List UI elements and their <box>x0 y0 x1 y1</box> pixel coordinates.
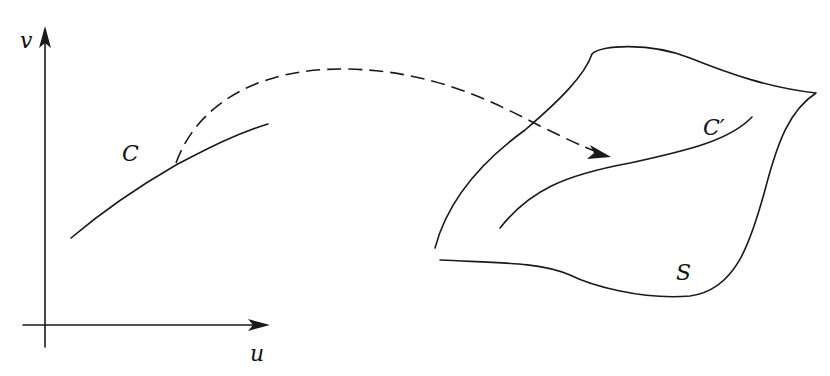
surface-s-label: S <box>676 262 691 284</box>
curve-c <box>71 124 268 238</box>
curve-c-prime-label: C′ <box>703 117 725 139</box>
mapping-arrow <box>176 69 598 163</box>
v-axis-label: v <box>20 30 32 52</box>
diagram-drawing <box>0 0 830 376</box>
u-axis-label: u <box>250 343 264 365</box>
diagram-canvas: v u C C′ S <box>0 0 830 376</box>
surface-s-outline <box>435 47 816 297</box>
mapping-arrowhead-icon <box>587 145 611 159</box>
curve-c-label: C <box>122 143 139 165</box>
u-axis <box>23 319 270 331</box>
v-axis <box>39 26 51 347</box>
